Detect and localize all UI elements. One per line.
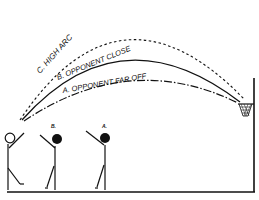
ball-icon: [5, 133, 15, 143]
opponent-b-figure: B.: [40, 123, 62, 190]
basket-net-icon: [239, 104, 252, 116]
opponent-a-head: [100, 133, 110, 143]
opponent-a-figure: A.: [86, 123, 110, 190]
opponent-a-label: A.: [101, 123, 107, 129]
opponent-b-head: [52, 134, 62, 144]
arc-a-opponent-far: [24, 80, 238, 121]
shooter-figure: [5, 133, 24, 190]
shooting-arc-diagram: C. HIGH ARC B. OPPONENT CLOSE A. OPPONEN…: [0, 0, 259, 200]
opponent-b-label: B.: [51, 123, 56, 129]
diagram-canvas: C. HIGH ARC B. OPPONENT CLOSE A. OPPONEN…: [0, 0, 259, 200]
